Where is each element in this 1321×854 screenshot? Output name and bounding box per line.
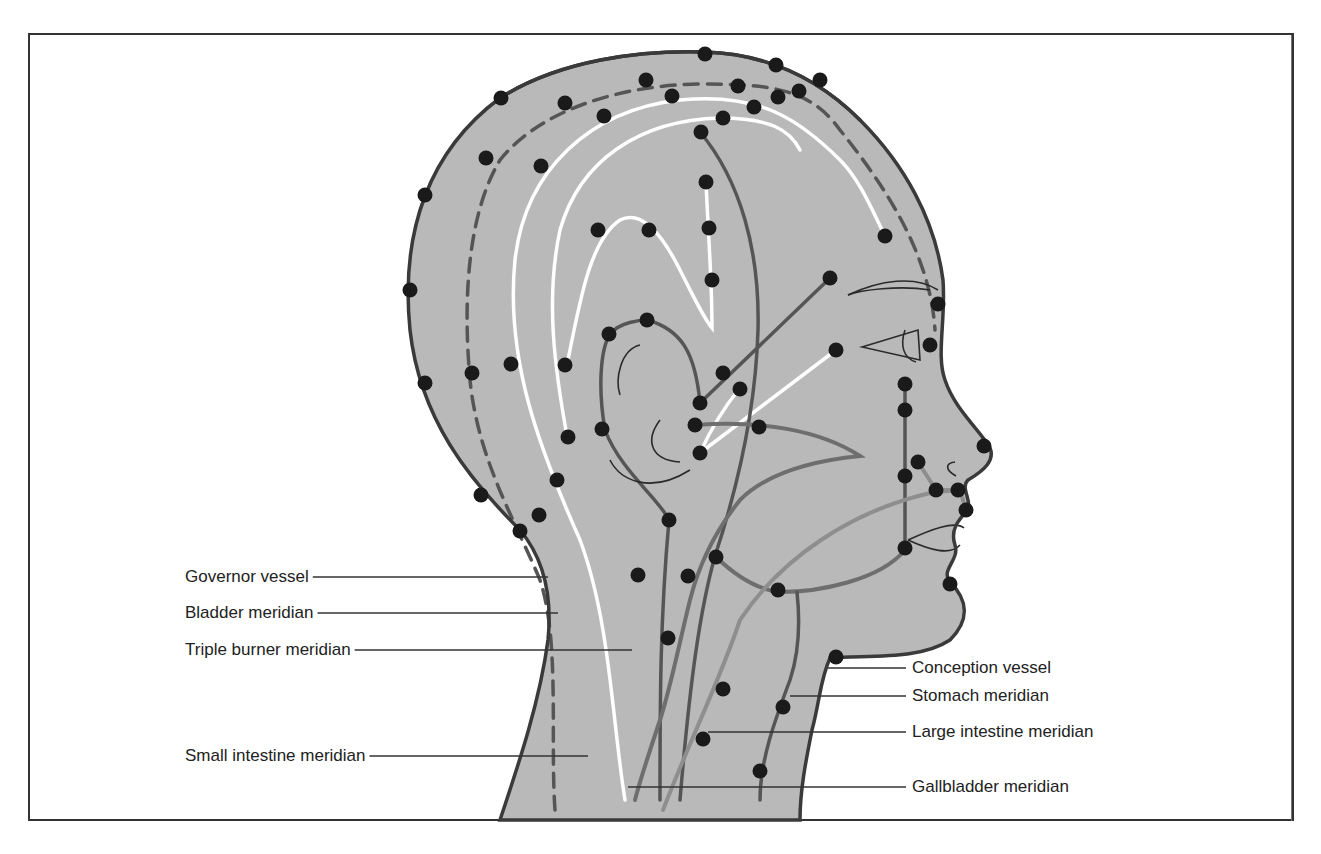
- acupuncture-point: [747, 100, 762, 115]
- label-bladder-meridian: Bladder meridian: [185, 603, 314, 623]
- acupuncture-point: [792, 84, 807, 99]
- acupuncture-point: [716, 111, 731, 126]
- acupuncture-point: [923, 338, 938, 353]
- acupuncture-point: [403, 283, 418, 298]
- acupuncture-point: [698, 47, 713, 62]
- acupuncture-point: [716, 366, 731, 381]
- acupuncture-point: [558, 358, 573, 373]
- acupuncture-point: [661, 631, 676, 646]
- acupuncture-point: [951, 483, 966, 498]
- acupuncture-point: [705, 273, 720, 288]
- acupuncture-point: [733, 382, 748, 397]
- acupuncture-point: [418, 376, 433, 391]
- acupuncture-point: [731, 79, 746, 94]
- acupuncture-point: [898, 469, 913, 484]
- acupuncture-point: [752, 420, 767, 435]
- acupuncture-point: [532, 508, 547, 523]
- acupuncture-point: [898, 377, 913, 392]
- acupuncture-point: [776, 700, 791, 715]
- acupuncture-point: [479, 151, 494, 166]
- acupuncture-point: [829, 650, 844, 665]
- label-conception-vessel: Conception vessel: [912, 658, 1051, 678]
- acupuncture-point: [813, 73, 828, 88]
- acupuncture-point: [418, 188, 433, 203]
- acupuncture-point: [696, 732, 711, 747]
- acupuncture-point: [898, 541, 913, 556]
- label-stomach-meridian: Stomach meridian: [912, 686, 1049, 706]
- label-large-intestine-meridian: Large intestine meridian: [912, 722, 1093, 742]
- acupuncture-point: [693, 446, 708, 461]
- acupuncture-point: [504, 357, 519, 372]
- acupuncture-point: [591, 223, 606, 238]
- acupuncture-point: [823, 271, 838, 286]
- label-triple-burner-meridian: Triple burner meridian: [185, 640, 351, 660]
- acupuncture-point: [595, 422, 610, 437]
- acupuncture-point: [665, 89, 680, 104]
- acupuncture-point: [929, 483, 944, 498]
- acupuncture-point: [631, 568, 646, 583]
- acupuncture-point: [534, 159, 549, 174]
- acupuncture-point: [911, 455, 926, 470]
- acupuncture-point: [494, 91, 509, 106]
- acupuncture-point: [561, 430, 576, 445]
- acupuncture-point: [550, 473, 565, 488]
- label-gallbladder-meridian: Gallbladder meridian: [912, 777, 1069, 797]
- acupuncture-point: [597, 109, 612, 124]
- head-meridian-diagram: [0, 0, 1321, 854]
- acupuncture-point: [771, 583, 786, 598]
- acupuncture-point: [465, 366, 480, 381]
- acupuncture-point: [640, 313, 655, 328]
- acupuncture-point: [709, 550, 724, 565]
- acupuncture-point: [513, 524, 528, 539]
- acupuncture-point: [878, 229, 893, 244]
- acupuncture-point: [639, 73, 654, 88]
- acupuncture-point: [769, 58, 784, 73]
- acupuncture-point: [943, 577, 958, 592]
- acupuncture-point: [688, 418, 703, 433]
- acupuncture-point: [702, 221, 717, 236]
- acupuncture-point: [602, 327, 617, 342]
- label-governor-vessel: Governor vessel: [185, 567, 309, 587]
- acupuncture-point: [959, 503, 974, 518]
- acupuncture-point: [931, 297, 946, 312]
- acupuncture-point: [829, 343, 844, 358]
- acupuncture-point: [642, 223, 657, 238]
- acupuncture-point: [693, 396, 708, 411]
- acupuncture-point: [662, 513, 677, 528]
- acupuncture-point: [771, 90, 786, 105]
- acupuncture-point: [558, 96, 573, 111]
- acupuncture-point: [681, 569, 696, 584]
- acupuncture-point: [694, 125, 709, 140]
- label-small-intestine-meridian: Small intestine meridian: [185, 746, 365, 766]
- acupuncture-point: [699, 175, 714, 190]
- acupuncture-point: [898, 403, 913, 418]
- acupuncture-point: [474, 488, 489, 503]
- acupuncture-point: [753, 764, 768, 779]
- acupuncture-point: [716, 682, 731, 697]
- acupuncture-point: [977, 439, 992, 454]
